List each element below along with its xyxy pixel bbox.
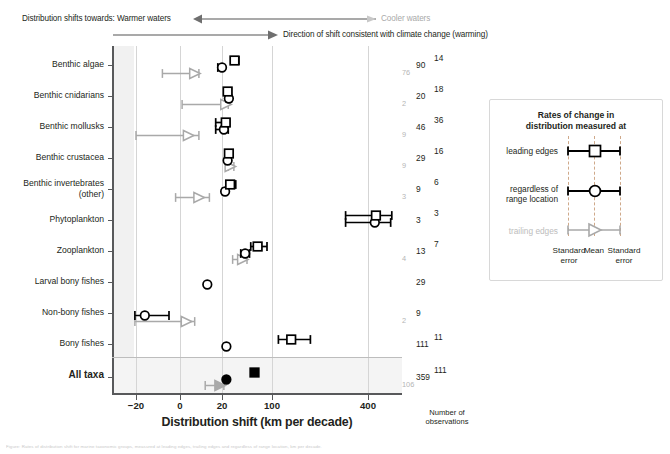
ylabel-benthic-mollusks: Benthic mollusks — [0, 121, 104, 132]
obs-circle-7: 13 — [416, 246, 425, 256]
observations-title-line1: Number of — [429, 408, 464, 417]
legend-foot-right-line1: Standard — [608, 246, 641, 255]
ylabel-benthic-invertebrates: Benthic invertebrates(other) — [0, 178, 104, 199]
ylabel-larval-bony-fishes: Larval bony fishes — [0, 276, 104, 287]
obs-circle-4: 29 — [416, 153, 425, 163]
legend-label-regardless: regardless ofrange location — [506, 184, 558, 204]
xticklabel-100: 100 — [264, 400, 280, 411]
legend-title-line2: distribution measured at — [526, 121, 626, 131]
obs-circle-10: 111 — [416, 339, 429, 349]
ylabel-zooplankton: Zooplankton — [0, 245, 104, 256]
legend-title-line1: Rates of change in — [538, 110, 614, 120]
obs-circle-9: 9 — [416, 308, 421, 318]
obs-square-5: 6 — [434, 177, 439, 187]
obs-triangle-1: 76 — [402, 68, 410, 77]
ylabel-all-taxa: All taxa — [0, 370, 104, 381]
obs-triangle-7: 4 — [402, 254, 406, 263]
obs-circle-2: 20 — [416, 91, 425, 101]
ylabel-benthic-algae: Benthic algae — [0, 59, 104, 70]
data-markers-layer — [112, 46, 402, 395]
xticklabel-400: 400 — [360, 400, 376, 411]
x-axis-title: Distribution shift (km per decade) — [112, 415, 402, 429]
ylabel-bony-fishes: Bony fishes — [0, 338, 104, 349]
obs-circle-8: 29 — [416, 277, 425, 287]
obs-square-3: 36 — [434, 115, 443, 125]
obs-circle-11: 359 — [416, 372, 430, 382]
figure-caption: Figure: Rates of distribution shift for … — [6, 444, 664, 454]
obs-square-6: 3 — [434, 208, 439, 218]
warmer-cooler-arrow-icon — [193, 14, 376, 24]
climate-direction-label: Direction of shift consistent with clima… — [283, 30, 488, 40]
shift-direction-label: Distribution shifts towards: Warmer wate… — [22, 14, 171, 24]
obs-square-2: 18 — [434, 84, 443, 94]
legend-foot-right: Standard error — [593, 246, 655, 266]
obs-triangle-9: 2 — [402, 316, 406, 325]
obs-triangle-5: 3 — [402, 192, 406, 201]
obs-square-4: 16 — [434, 146, 443, 156]
plot-area — [112, 46, 402, 395]
obs-circle-5: 9 — [416, 184, 421, 194]
obs-triangle-3: 9 — [402, 130, 406, 139]
figure-root: Distribution shifts towards: Warmer wate… — [0, 0, 670, 454]
ylabel-non-bony-fishes: Non-bony fishes — [0, 307, 104, 318]
legend-label-trailing-edges: trailing edges — [509, 226, 558, 236]
ylabel-phytoplankton: Phytoplankton — [0, 214, 104, 225]
legend-title: Rates of change in distribution measured… — [490, 110, 662, 132]
observations-title-line2: observations — [425, 417, 468, 426]
obs-circle-3: 46 — [416, 122, 425, 132]
legend-label-leading-edges: leading edges — [506, 146, 558, 156]
obs-square-1: 14 — [434, 53, 443, 63]
observations-title: Number of observations — [404, 408, 490, 427]
legend-box: Rates of change in distribution measured… — [489, 99, 663, 281]
cooler-waters-label: Cooler waters — [381, 14, 430, 24]
xticklabel-0: 0 — [177, 400, 182, 411]
legend-foot-right-line2: error — [615, 256, 632, 265]
legend-markers — [561, 140, 631, 250]
obs-square-11: 111 — [434, 365, 447, 375]
obs-triangle-4: 9 — [402, 161, 406, 170]
climate-direction-arrow-icon — [113, 30, 278, 40]
xticklabel--20: −20 — [128, 400, 144, 411]
obs-triangle-11: 106 — [402, 380, 414, 389]
xticklabel-20: 20 — [217, 400, 228, 411]
ylabel-benthic-crustacea: Benthic crustacea — [0, 152, 104, 163]
obs-square-10: 11 — [434, 332, 443, 342]
obs-circle-1: 90 — [416, 60, 425, 70]
obs-circle-6: 3 — [416, 215, 421, 225]
legend-foot-left-line2: error — [560, 256, 577, 265]
obs-square-7: 7 — [434, 239, 439, 249]
obs-triangle-2: 2 — [402, 99, 406, 108]
ylabel-benthic-cnidarians: Benthic cnidarians — [0, 90, 104, 101]
